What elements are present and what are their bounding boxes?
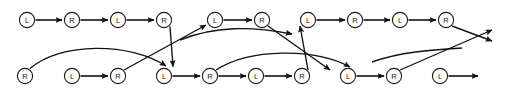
node-b1[interactable]: R [17, 68, 32, 83]
node-t5-label: L [213, 16, 217, 25]
node-b7[interactable]: R [294, 68, 309, 83]
node-t7-label: L [306, 16, 310, 25]
node-b10[interactable]: L [432, 68, 447, 83]
node-t1-label: L [25, 16, 29, 25]
lr-sequence-diagram: L R L R L R L [0, 0, 506, 95]
node-t3[interactable]: L [110, 12, 125, 27]
nodes-layer: L R L R L R L [17, 12, 453, 83]
node-b9-label: R [391, 72, 397, 81]
node-b2[interactable]: L [64, 68, 79, 83]
node-b9[interactable]: R [386, 68, 401, 83]
node-t9[interactable]: L [392, 12, 407, 27]
node-t8-label: R [352, 16, 358, 25]
edge-rightcurve [372, 48, 462, 62]
edge-b3-t5-diagonal-up [124, 25, 206, 70]
node-t6[interactable]: R [254, 12, 269, 27]
node-t2-label: R [69, 16, 75, 25]
node-b1-label: R [22, 72, 28, 81]
node-t9-label: L [398, 16, 402, 25]
node-b3[interactable]: R [110, 68, 125, 83]
node-t2[interactable]: R [64, 12, 79, 27]
node-b3-label: R [115, 72, 121, 81]
node-b2-label: L [70, 72, 74, 81]
node-b6-label: L [254, 72, 258, 81]
node-t7[interactable]: L [300, 12, 315, 27]
node-b7-label: R [299, 72, 305, 81]
edge-b7-t7-diagonal-up [300, 26, 308, 70]
node-b4-label: L [162, 72, 166, 81]
node-b5-label: R [207, 72, 213, 81]
node-t1[interactable]: L [19, 12, 34, 27]
node-t6-label: R [259, 16, 265, 25]
edge-t4-b4-diagonal-down [170, 27, 173, 67]
node-t10-label: R [443, 16, 449, 25]
node-t10[interactable]: R [438, 12, 453, 27]
node-t4[interactable]: R [156, 12, 171, 27]
edge-t6-b7-diagonal-down [268, 26, 330, 70]
edge-b9-exit-diagonal-up [400, 30, 492, 70]
edges-layer [30, 20, 492, 76]
node-b5[interactable]: R [202, 68, 217, 83]
node-t8[interactable]: R [347, 12, 362, 27]
node-t4-label: R [161, 16, 167, 25]
node-t3-label: L [116, 16, 120, 25]
node-b4[interactable]: L [156, 68, 171, 83]
node-t5[interactable]: L [207, 12, 222, 27]
node-b8-label: L [346, 72, 350, 81]
node-b8[interactable]: L [340, 68, 355, 83]
node-b10-label: L [438, 72, 442, 81]
node-b6[interactable]: L [248, 68, 263, 83]
diagram-canvas: L R L R L R L [0, 0, 506, 95]
edge-b5-b8-curve [216, 53, 350, 70]
